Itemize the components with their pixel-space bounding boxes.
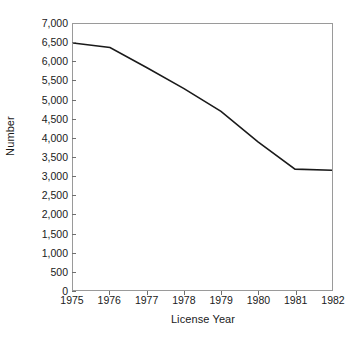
y-axis-tick-mark: [72, 80, 76, 81]
y-axis-tick-label: 4,500: [22, 114, 68, 124]
x-axis-tick-mark: [147, 291, 148, 295]
y-axis-tick-label: 5,500: [22, 75, 68, 85]
y-axis-tick-mark: [72, 272, 76, 273]
y-axis-tick-mark: [72, 214, 76, 215]
y-axis-tick-label: 5,000: [22, 95, 68, 105]
y-axis-tick-mark: [72, 119, 76, 120]
y-axis-tick-mark: [72, 253, 76, 254]
y-axis-tick-mark: [72, 291, 76, 292]
y-axis-tick-label: 4,000: [22, 133, 68, 143]
x-axis-tick-labels: 19751976197719781979198019811982: [0, 294, 356, 310]
y-axis-tick-label: 2,000: [22, 209, 68, 219]
y-axis-tick-label: 3,000: [22, 171, 68, 181]
y-axis-tick-label: 6,000: [22, 56, 68, 66]
x-axis-tick-mark: [258, 291, 259, 295]
x-axis-tick-mark: [184, 291, 185, 295]
y-axis-tick-label: 7,000: [22, 18, 68, 28]
x-axis-tick-mark: [109, 291, 110, 295]
y-axis-tick-mark: [72, 100, 76, 101]
y-axis-tick-mark: [72, 157, 76, 158]
y-axis-tick-labels: 05001,0001,5002,0002,5003,0003,5004,0004…: [18, 23, 68, 291]
line-chart-svg: [73, 24, 332, 290]
x-axis-tick-label: 1982: [311, 294, 355, 306]
plot-area: [72, 23, 333, 291]
x-axis-tick-mark: [296, 291, 297, 295]
chart-figure: Number 05001,0001,5002,0002,5003,0003,50…: [0, 0, 356, 337]
y-axis-tick-label: 1,500: [22, 229, 68, 239]
y-axis-tick-label: 2,500: [22, 190, 68, 200]
y-axis-tick-label: 1,000: [22, 248, 68, 258]
y-axis-tick-label: 6,500: [22, 37, 68, 47]
data-series-line: [73, 43, 332, 170]
y-axis-tick-label: 3,500: [22, 152, 68, 162]
y-axis-tick-mark: [72, 42, 76, 43]
x-axis-title: License Year: [72, 313, 334, 325]
y-axis-title: Number: [4, 106, 16, 166]
y-axis-tick-mark: [72, 176, 76, 177]
x-axis-tick-mark: [221, 291, 222, 295]
y-axis-tick-mark: [72, 138, 76, 139]
y-axis-tick-mark: [72, 234, 76, 235]
y-axis-tick-label: 500: [22, 267, 68, 277]
y-axis-tick-mark: [72, 195, 76, 196]
y-axis-tick-mark: [72, 61, 76, 62]
